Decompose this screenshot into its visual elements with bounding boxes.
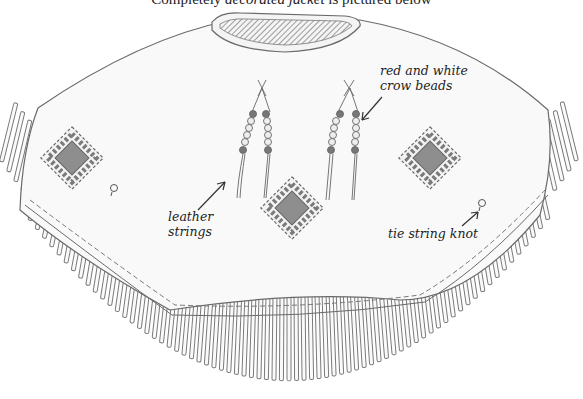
- poncho-body: [20, 20, 550, 310]
- poncho-illustration: [0, 0, 583, 399]
- label-tie-string-knot: tie string knot: [388, 226, 478, 241]
- label-leather-strings: leather strings: [168, 209, 213, 239]
- label-crow-beads: red and white crow beads: [380, 63, 468, 93]
